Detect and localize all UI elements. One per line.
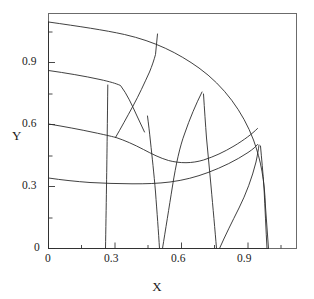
- y-axis-label: Y: [12, 128, 21, 144]
- x-tick-label-3: 0.9: [237, 252, 251, 264]
- x-tick-label-1: 0.3: [104, 252, 118, 264]
- mesh-plot-figure: 0 0.3 0.6 0.9 0 0.3 0.6 0.9 X Y: [0, 0, 314, 299]
- y-tick-label-1: 0.3: [22, 179, 36, 191]
- y-tick-label-0: 0: [34, 241, 40, 253]
- x-tick-label-0: 0: [45, 252, 51, 264]
- y-tick-label-2: 0.6: [22, 117, 36, 129]
- x-axis-label: X: [0, 279, 314, 295]
- y-tick-label-3: 0.9: [22, 55, 36, 67]
- x-tick-label-2: 0.6: [171, 252, 185, 264]
